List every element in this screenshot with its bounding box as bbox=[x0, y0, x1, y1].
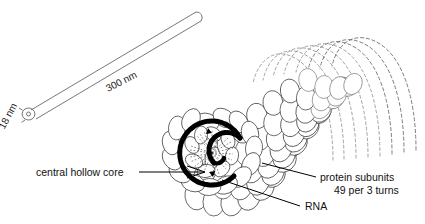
label-protein-subunits: protein subunits bbox=[320, 171, 394, 183]
scale-rod-upper-edge bbox=[31, 12, 196, 110]
diameter-tick-2 bbox=[22, 120, 25, 122]
label-rna: RNA bbox=[305, 200, 327, 212]
label-protein-subunits-count: 49 per 3 turns bbox=[334, 184, 399, 196]
scale-rod-lower-edge bbox=[36, 21, 201, 119]
virus-diagram-svg: 300 nm 18 nm bbox=[0, 0, 425, 224]
scale-rod-core-dot bbox=[27, 112, 31, 116]
scale-rod-end-cap bbox=[196, 12, 202, 21]
figure-canvas: 300 nm 18 nm bbox=[0, 0, 425, 224]
scale-diameter-label: 18 nm bbox=[0, 101, 19, 131]
scale-rod-group: 300 nm 18 nm bbox=[0, 12, 202, 131]
scale-length-label: 300 nm bbox=[104, 69, 139, 94]
diameter-tick bbox=[19, 108, 23, 110]
label-central-hollow-core: central hollow core bbox=[36, 166, 124, 178]
scale-rod-near-end-circle bbox=[22, 108, 35, 120]
